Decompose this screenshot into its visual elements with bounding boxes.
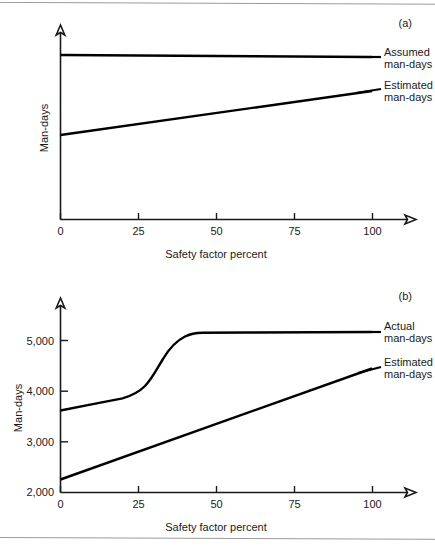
chart-b-series-label-actual-line2: man-days (384, 332, 433, 344)
chart-a-xtick-label-100: 100 (363, 225, 381, 237)
chart-a-series-label-assumed-line1: Assumed (384, 46, 430, 58)
chart-b-series-actual (61, 332, 373, 411)
chart-b-x-axis-title: Safety factor percent (165, 521, 267, 533)
chart-a-xtick-label-25: 25 (132, 225, 144, 237)
chart-b: 2,000 3,000 4,000 5,000 0 25 50 75 100 (0, 283, 435, 545)
chart-b-xtick-label-50: 50 (210, 498, 222, 510)
chart-b-series-estimated (61, 369, 373, 480)
chart-b-ytick-label-4000: 4,000 (26, 385, 54, 397)
chart-b-x-ticks (61, 486, 373, 493)
chart-a-xtick-label-0: 0 (57, 225, 63, 237)
chart-b-y-tick-labels: 2,000 3,000 4,000 5,000 (26, 335, 54, 499)
chart-a-x-tick-labels: 0 25 50 75 100 (57, 225, 381, 237)
chart-b-x-axis-arrowhead (405, 488, 416, 497)
chart-b-ytick-label-3000: 3,000 (26, 436, 54, 448)
chart-a: 0 25 50 75 100 Safety factor percent Man… (0, 8, 435, 273)
chart-a-x-axis-arrowhead (405, 215, 416, 224)
chart-b-ytick-label-5000: 5,000 (26, 335, 54, 347)
chart-b-y-axis-title: Man-days (12, 383, 24, 432)
chart-a-series-estimated (61, 91, 373, 135)
chart-a-series-assumed (61, 55, 373, 57)
chart-b-canvas: 2,000 3,000 4,000 5,000 0 25 50 75 100 (0, 283, 435, 545)
chart-a-series-label-estimated-line1: Estimated (384, 79, 433, 91)
chart-b-y-ticks (61, 341, 69, 442)
chart-b-series-label-estimated-line2: man-days (384, 368, 433, 380)
chart-a-series-label-estimated-line2: man-days (384, 91, 433, 103)
chart-b-xtick-label-0: 0 (57, 498, 63, 510)
chart-a-x-ticks (61, 213, 373, 220)
figure-page: 0 25 50 75 100 Safety factor percent Man… (0, 0, 435, 555)
chart-b-series-label-actual: Actual man-days (384, 320, 433, 344)
chart-a-panel-label: (a) (399, 17, 412, 29)
chart-a-series-label-estimated: Estimated man-days (384, 79, 433, 103)
chart-b-series-label-estimated: Estimated man-days (384, 356, 433, 380)
chart-a-canvas: 0 25 50 75 100 Safety factor percent Man… (0, 8, 435, 273)
page-rule-top (0, 2, 435, 5)
chart-b-xtick-label-100: 100 (363, 498, 381, 510)
chart-b-leader-estimated (358, 367, 381, 373)
chart-a-series-label-assumed-line2: man-days (384, 58, 433, 70)
chart-a-xtick-label-75: 75 (288, 225, 300, 237)
chart-a-xtick-label-50: 50 (210, 225, 222, 237)
chart-b-ytick-label-2000: 2,000 (26, 486, 54, 498)
chart-a-y-axis-title: Man-days (38, 103, 50, 152)
chart-b-series-label-estimated-line1: Estimated (384, 356, 433, 368)
chart-a-x-axis-title: Safety factor percent (165, 248, 267, 260)
chart-b-xtick-label-25: 25 (132, 498, 144, 510)
chart-b-axes (56, 298, 416, 497)
chart-b-x-tick-labels: 0 25 50 75 100 (57, 498, 381, 510)
chart-b-xtick-label-75: 75 (288, 498, 300, 510)
chart-a-series-label-assumed: Assumed man-days (384, 46, 433, 70)
chart-b-panel-label: (b) (399, 290, 412, 302)
chart-b-series-label-actual-line1: Actual (384, 320, 415, 332)
